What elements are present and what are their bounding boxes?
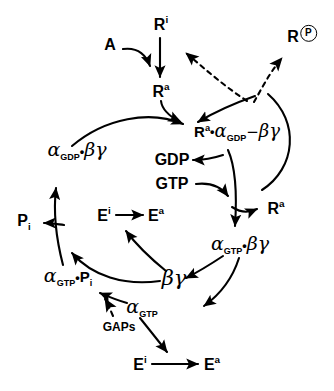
phosphate-badge-icon: P [300, 25, 317, 42]
label-alpha-gdp-betagamma: αGDP•βγ [47, 140, 106, 162]
arrow-alphagtp-to-alphagtppi [100, 293, 127, 303]
arrow-alphagtp-to-effector-bottom [140, 318, 167, 352]
arrow-dashed-receptor-recycle [186, 53, 247, 101]
label-alpha-gtp-phosphate: αGTP•Pi [44, 266, 92, 288]
label-receptor-active-top: Ra [152, 82, 169, 99]
arrow-dashed-gaps [105, 299, 113, 316]
label-receptor-phosphorylated: RP [287, 25, 317, 45]
arrow-complex-to-gdp [193, 155, 223, 160]
label-gdp: GDP [155, 152, 190, 168]
arrow-release-phosphate [44, 223, 64, 225]
arrow-betagamma-to-effector-mid [126, 231, 166, 271]
arrow-gtp-in [196, 184, 228, 196]
arrow-alphagtppi-to-alphagdpbg [55, 188, 63, 265]
gprotein-cycle-diagram: A Ri Ra RP Ra•αGDP−βγ GDP GTP Ra αGDP•βγ… [0, 0, 334, 391]
label-effector-active-bottom: Ea [204, 355, 220, 372]
sup-active: a [164, 81, 170, 92]
label-agonist: A [104, 37, 116, 53]
label-effector-active-mid: Ea [148, 206, 164, 223]
label-phosphate-inorganic: Pi [17, 213, 30, 232]
arrow-complex-to-alphagtp-bg [228, 150, 236, 226]
label-betagamma: βγ [162, 268, 187, 289]
diagram-arrows-layer [0, 0, 334, 391]
label-ternary-complex: Ra•αGDP−βγ [194, 122, 280, 143]
complex-link-dash: − [246, 123, 259, 141]
label-alpha-gtp-betagamma: αGTP•βγ [211, 234, 269, 256]
label-receptor-active-right: Ra [267, 199, 284, 216]
label-effector-inactive-mid: Ei [97, 206, 110, 223]
label-effector-inactive-bottom: Ei [133, 355, 146, 372]
label-gaps: GAPs [103, 321, 136, 333]
label-alpha-gtp: αGTP [126, 297, 157, 319]
arrow-agonist-to-receptor [123, 49, 150, 66]
arrow-alphagtpbg-to-betagamma [186, 256, 223, 278]
label-receptor-inactive-top: Ri [154, 15, 168, 32]
label-gtp: GTP [156, 176, 189, 192]
sup-inactive: i [165, 14, 168, 25]
